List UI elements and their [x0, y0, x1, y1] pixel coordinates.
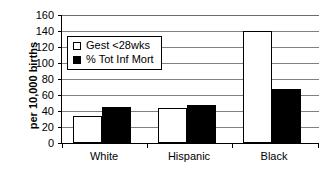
y-tick-label: 160 — [36, 9, 54, 21]
y-tick-label: 80 — [42, 73, 54, 85]
bar-black-gest — [243, 31, 272, 143]
y-tick-label: 0 — [48, 137, 54, 149]
bar-white-gest — [73, 116, 102, 143]
y-tick-label: 60 — [42, 89, 54, 101]
bar-hispanic-gest — [158, 108, 187, 143]
plot-area — [61, 15, 319, 144]
bar-chart: per 10,000 births 160 140 120 100 80 60 … — [0, 0, 331, 171]
bars-layer — [62, 15, 319, 143]
x-label-black: Black — [261, 150, 288, 162]
legend: Gest <28wks % Tot Inf Mort — [67, 36, 162, 70]
y-tick-label: 20 — [42, 121, 54, 133]
legend-item-gest: Gest <28wks — [73, 40, 154, 51]
bar-hispanic-mort — [187, 105, 216, 143]
x-label-hispanic: Hispanic — [168, 150, 210, 162]
y-tick-label: 140 — [36, 25, 54, 37]
bar-black-mort — [272, 89, 301, 143]
legend-item-mort: % Tot Inf Mort — [73, 54, 154, 65]
legend-label: Gest <28wks — [86, 40, 150, 51]
bar-white-mort — [102, 107, 131, 143]
legend-swatch-open-icon — [73, 42, 81, 50]
legend-label: % Tot Inf Mort — [86, 54, 154, 65]
y-tick-label: 40 — [42, 105, 54, 117]
y-tick-label: 120 — [36, 41, 54, 53]
legend-swatch-filled-icon — [73, 56, 81, 64]
x-axis-category-labels: White Hispanic Black — [61, 150, 319, 166]
x-tick-mark — [232, 143, 233, 148]
x-label-white: White — [90, 150, 118, 162]
y-tick-label: 100 — [36, 57, 54, 69]
x-tick-mark — [147, 143, 148, 148]
y-axis-tick-labels: 160 140 120 100 80 60 40 20 0 — [24, 15, 58, 143]
x-tick-mark — [318, 143, 319, 148]
x-tick-mark — [62, 143, 63, 148]
